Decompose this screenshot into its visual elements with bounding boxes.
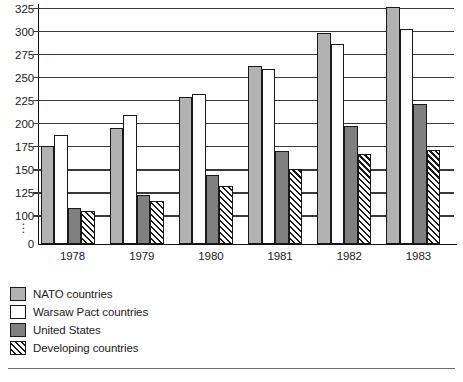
bar-warsaw-1981 xyxy=(262,69,276,244)
x-axis-line xyxy=(38,244,457,245)
bar-group-1979 xyxy=(108,4,177,244)
bar-nato-1978 xyxy=(41,146,55,244)
y-axis-break-marker: ••• xyxy=(22,222,25,234)
bar-warsaw-1980 xyxy=(192,94,206,244)
legend-item-warsaw: Warsaw Pact countries xyxy=(10,303,270,321)
bar-warsaw-1979 xyxy=(123,115,137,244)
plot-wrapper: 3253002752502252001751501251000••• 19781… xyxy=(0,4,463,280)
plot-area xyxy=(38,4,454,244)
bar-warsaw-1983 xyxy=(400,29,414,244)
bar-chart-figure: 3253002752502252001751501251000••• 19781… xyxy=(0,0,463,382)
y-tick-label-150: 150 xyxy=(0,164,34,175)
y-tick-label-100: 100 xyxy=(0,211,34,222)
bar-developing-1982 xyxy=(358,154,372,244)
legend-swatch-developing-icon xyxy=(10,341,26,355)
bar-group-1982 xyxy=(316,4,385,244)
legend-label-developing: Developing countries xyxy=(33,341,138,355)
y-tick-label-225: 225 xyxy=(0,95,34,106)
bar-us-1978 xyxy=(68,208,82,244)
x-tick-label-1980: 1980 xyxy=(176,249,245,263)
y-axis: 3253002752502252001751501251000••• xyxy=(0,4,34,280)
bar-nato-1983 xyxy=(386,7,400,244)
y-tick-label-175: 175 xyxy=(0,141,34,152)
bar-us-1979 xyxy=(137,195,151,244)
bar-warsaw-1982 xyxy=(331,44,345,244)
y-tick-label-0: 0 xyxy=(0,239,34,250)
bar-us-1981 xyxy=(275,151,289,244)
bar-us-1983 xyxy=(413,104,427,244)
y-tick-label-125: 125 xyxy=(0,187,34,198)
x-tick-label-1979: 1979 xyxy=(107,249,176,263)
x-tick-label-1982: 1982 xyxy=(315,249,384,263)
x-tick-label-1978: 1978 xyxy=(38,249,107,263)
legend-item-us: United States xyxy=(10,321,270,339)
bar-developing-1979 xyxy=(150,201,164,244)
bar-nato-1981 xyxy=(248,66,262,244)
bar-warsaw-1978 xyxy=(54,135,68,244)
legend-label-nato: NATO countries xyxy=(33,287,112,301)
x-axis: 197819791980198119821983 xyxy=(38,249,453,271)
y-tick-label-200: 200 xyxy=(0,118,34,129)
x-tick-label-1981: 1981 xyxy=(246,249,315,263)
legend-swatch-us-icon xyxy=(10,323,26,337)
bar-developing-1981 xyxy=(289,169,303,244)
bar-developing-1980 xyxy=(219,186,233,244)
bar-us-1982 xyxy=(344,126,358,244)
legend-label-warsaw: Warsaw Pact countries xyxy=(33,305,148,319)
footer-divider xyxy=(8,368,455,369)
x-tick-label-1983: 1983 xyxy=(384,249,453,263)
bar-group-1980 xyxy=(177,4,246,244)
bar-developing-1983 xyxy=(427,150,441,244)
y-tick-label-300: 300 xyxy=(0,26,34,37)
bar-developing-1978 xyxy=(81,211,95,244)
legend-swatch-nato-icon xyxy=(10,287,26,301)
y-tick-label-325: 325 xyxy=(0,3,34,14)
y-tick-label-275: 275 xyxy=(0,49,34,60)
bars-layer xyxy=(39,4,454,244)
chart-legend: NATO countriesWarsaw Pact countriesUnite… xyxy=(10,285,270,357)
bar-us-1980 xyxy=(206,175,220,244)
y-axis-lower-stub xyxy=(38,216,39,244)
legend-label-us: United States xyxy=(33,323,101,337)
bar-group-1978 xyxy=(39,4,108,244)
legend-item-developing: Developing countries xyxy=(10,339,270,357)
bar-nato-1980 xyxy=(179,97,193,244)
y-tick-label-250: 250 xyxy=(0,72,34,83)
legend-item-nato: NATO countries xyxy=(10,285,270,303)
bar-group-1983 xyxy=(385,4,454,244)
bar-nato-1979 xyxy=(110,128,124,244)
legend-swatch-warsaw-icon xyxy=(10,305,26,319)
bar-nato-1982 xyxy=(317,33,331,244)
bar-group-1981 xyxy=(247,4,316,244)
